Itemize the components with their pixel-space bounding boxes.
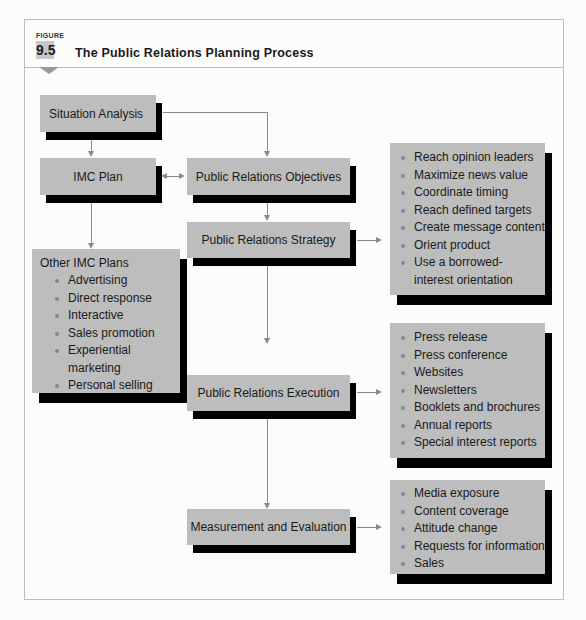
list-item: Attitude change bbox=[396, 520, 545, 538]
arrow-right-icon bbox=[376, 237, 382, 243]
list-item: Booklets and brochures bbox=[396, 399, 545, 417]
list-item: Newsletters bbox=[396, 382, 545, 400]
header-triangle-icon bbox=[39, 67, 59, 74]
connector-imc-other bbox=[91, 196, 92, 244]
figure-label: FIGURE bbox=[36, 32, 64, 39]
execution-tools-list: Press release Press conference Websites … bbox=[390, 323, 545, 458]
node-label: Public Relations Execution bbox=[197, 386, 339, 400]
list-item: Press release bbox=[396, 329, 545, 347]
arrow-down-icon bbox=[88, 151, 94, 157]
node-situation-analysis: Situation Analysis bbox=[40, 95, 156, 132]
connector-execution-list bbox=[357, 392, 377, 393]
list-item: Annual reports bbox=[396, 417, 545, 435]
header-divider bbox=[24, 67, 563, 68]
arrow-right-icon bbox=[376, 524, 382, 530]
list-item: Personal selling bbox=[50, 377, 180, 395]
list-item: Press conference bbox=[396, 347, 545, 365]
node-other-imc-plans: Other IMC Plans Advertising Direct respo… bbox=[32, 249, 180, 393]
arrow-right-icon bbox=[179, 173, 185, 179]
connector-situation-objectives-v bbox=[267, 112, 268, 151]
connector-strategy-execution bbox=[267, 266, 268, 338]
node-label: Measurement and Evaluation bbox=[190, 520, 346, 534]
figure-title: The Public Relations Planning Process bbox=[75, 46, 314, 60]
list-item: Use a borrowed-interest orientation bbox=[396, 254, 536, 289]
list-item: Direct response bbox=[50, 290, 180, 308]
connector-strategy-list bbox=[357, 240, 377, 241]
connector-objectives-strategy bbox=[267, 203, 268, 215]
list-item: Media exposure bbox=[396, 485, 545, 503]
list-item: Advertising bbox=[50, 272, 180, 290]
connector-imc-objectives bbox=[166, 176, 180, 177]
list-item: Reach defined targets bbox=[396, 202, 545, 220]
node-imc-plan: IMC Plan bbox=[40, 158, 156, 195]
list-item: Experiential marketing bbox=[50, 342, 148, 377]
list-item: Create message content bbox=[396, 219, 545, 237]
arrow-left-icon bbox=[161, 173, 167, 179]
arrow-down-icon bbox=[264, 151, 270, 157]
measurement-metrics-list: Media exposure Content coverage Attitude… bbox=[390, 480, 545, 574]
node-label: Public Relations Strategy bbox=[201, 233, 335, 247]
node-pr-objectives: Public Relations Objectives bbox=[187, 158, 350, 195]
list-item: Websites bbox=[396, 364, 545, 382]
arrow-right-icon bbox=[376, 389, 382, 395]
connector-situation-objectives bbox=[163, 112, 268, 113]
list-item: Orient product bbox=[396, 237, 545, 255]
node-measurement: Measurement and Evaluation bbox=[187, 509, 350, 545]
node-label: IMC Plan bbox=[73, 170, 122, 184]
connector-measurement-list bbox=[357, 527, 377, 528]
list-item: Special interest reports bbox=[396, 434, 545, 452]
list-item: Content coverage bbox=[396, 503, 545, 521]
node-pr-execution: Public Relations Execution bbox=[187, 375, 350, 411]
other-imc-title: Other IMC Plans bbox=[40, 255, 180, 272]
figure-number: 9.5 bbox=[36, 41, 54, 59]
list-item: Maximize news value bbox=[396, 167, 545, 185]
list-item: Interactive bbox=[50, 307, 180, 325]
node-label: Public Relations Objectives bbox=[196, 170, 341, 184]
arrow-down-icon bbox=[264, 215, 270, 221]
list-item: Sales promotion bbox=[50, 325, 180, 343]
list-item: Reach opinion leaders bbox=[396, 149, 545, 167]
list-item: Sales bbox=[396, 555, 545, 573]
strategy-tactics-list: Reach opinion leaders Maximize news valu… bbox=[390, 143, 545, 295]
list-item: Requests for information bbox=[396, 538, 545, 556]
node-pr-strategy: Public Relations Strategy bbox=[187, 222, 350, 258]
node-label: Situation Analysis bbox=[49, 107, 143, 121]
list-item: Coordinate timing bbox=[396, 184, 545, 202]
arrow-down-icon bbox=[264, 338, 270, 344]
connector-situation-imc bbox=[91, 133, 92, 152]
